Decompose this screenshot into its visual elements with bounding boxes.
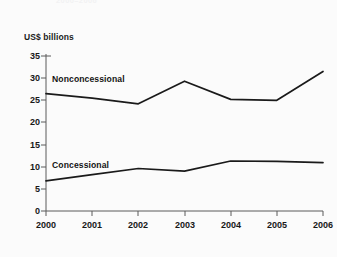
y-tick-label-5: 5 xyxy=(22,184,40,194)
y-tick-label-30: 30 xyxy=(22,73,40,83)
y-tick-label-15: 15 xyxy=(22,140,40,150)
y-tick-label-25: 25 xyxy=(22,95,40,105)
chart-figure: 2000–2006 US$ billions xyxy=(0,0,337,257)
x-tick-label-2005: 2005 xyxy=(260,220,294,230)
plot-area xyxy=(0,0,337,257)
y-tick-label-35: 35 xyxy=(22,51,40,61)
x-tick-label-2001: 2001 xyxy=(75,220,109,230)
x-tick-label-2003: 2003 xyxy=(168,220,202,230)
x-tick-label-2002: 2002 xyxy=(121,220,155,230)
series-label-nonconcessional: Nonconcessional xyxy=(52,74,125,84)
x-tick-marks xyxy=(46,211,323,216)
y-tick-label-20: 20 xyxy=(22,117,40,127)
y-tick-label-0: 0 xyxy=(22,206,40,216)
x-tick-label-2006: 2006 xyxy=(306,220,337,230)
x-tick-label-2000: 2000 xyxy=(29,220,63,230)
x-tick-label-2004: 2004 xyxy=(214,220,248,230)
y-tick-label-10: 10 xyxy=(22,162,40,172)
y-tick-marks xyxy=(41,56,46,211)
series-label-concessional: Concessional xyxy=(52,160,109,170)
